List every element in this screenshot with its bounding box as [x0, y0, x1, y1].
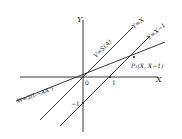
origin-label: 0 [85, 79, 89, 86]
label-w-subspace: W=S(Iₙ−AA⁻) [16, 85, 54, 104]
point-p1 [133, 56, 135, 58]
y-tick-label: −1 [71, 100, 80, 107]
y-axis-label: Y [77, 15, 83, 24]
x-tick-1 [109, 76, 111, 78]
label-v-subspace: V=S(A) [92, 37, 113, 58]
label-point-p1: P₁(X, X−1) [130, 62, 164, 69]
label-y-eq-x-minus-1: Y=X−1 [145, 21, 166, 41]
label-y-eq-x: Y=X [130, 15, 145, 29]
x-tick-label: 1 [112, 79, 116, 86]
x-axis-label: X [155, 75, 162, 84]
y-tick-minus-1 [82, 102, 84, 104]
diagram-canvas: Y X 0 1 −1 Y=X Y=X−1 V=S(A) W=S(Iₙ−AA⁻) … [0, 0, 182, 139]
